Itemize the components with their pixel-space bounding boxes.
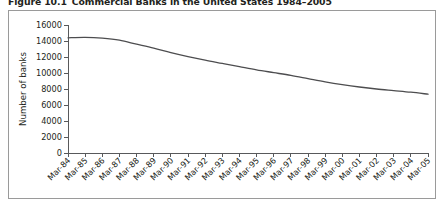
y-tick-label: 16000 [36,20,62,30]
axis-titles: Number of banks [18,52,28,126]
y-tick-label: 0 [57,148,62,158]
y-tick-label: 2000 [41,132,62,142]
y-tick-label: 14000 [36,36,62,46]
chart-canvas: 0200040006000800010000120001400016000 Ma… [0,0,444,206]
y-axis-title: Number of banks [18,52,28,126]
y-tick-label: 10000 [36,68,62,78]
y-tick-label: 8000 [41,84,62,94]
y-tick-label: 12000 [36,52,62,62]
y-axis: 0200040006000800010000120001400016000 [36,20,68,158]
x-axis: Mar-84Mar-85Mar-86Mar-87Mar-88Mar-89Mar-… [45,153,432,182]
y-tick-label: 4000 [41,116,62,126]
data-series-line [68,37,428,94]
plot-series-group [68,37,428,94]
y-tick-label: 6000 [41,100,62,110]
line-chart: 0200040006000800010000120001400016000 Ma… [0,0,444,206]
